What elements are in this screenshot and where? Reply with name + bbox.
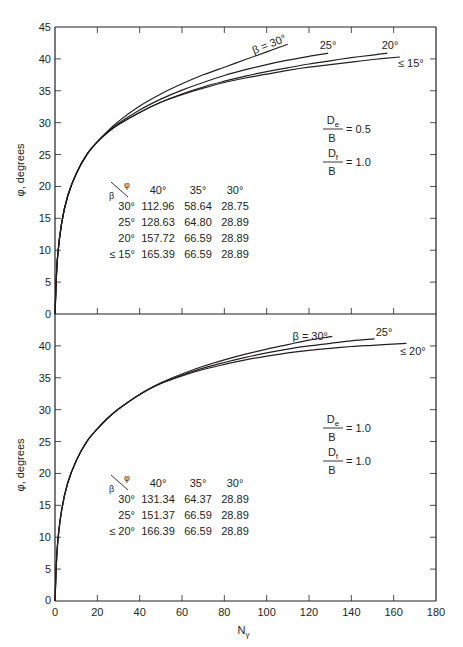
series-label: 20° bbox=[382, 39, 399, 51]
y-tick-label: 35 bbox=[39, 85, 51, 97]
y-tick-label: 30 bbox=[39, 404, 51, 416]
series-label: ≤ 20° bbox=[400, 345, 426, 357]
table-row-beta: 25° bbox=[118, 509, 135, 521]
y-tick-label: 45 bbox=[39, 21, 51, 33]
x-tick-label: 40 bbox=[134, 606, 146, 618]
x-tick-label: 100 bbox=[257, 606, 275, 618]
fraction-numerator: De bbox=[327, 413, 340, 428]
table-cell: 28.89 bbox=[221, 248, 249, 260]
x-tick-label: 120 bbox=[300, 606, 318, 618]
table-cell: 165.39 bbox=[141, 248, 175, 260]
table-row-beta: ≤ 20° bbox=[109, 525, 135, 537]
table-row-beta: ≤ 15° bbox=[109, 248, 135, 260]
table-cell: 28.75 bbox=[221, 200, 249, 212]
table-column-header: 30° bbox=[227, 184, 244, 196]
y-tick-label: 40 bbox=[39, 340, 51, 352]
table-cell: 28.89 bbox=[221, 525, 249, 537]
table-cell: 28.89 bbox=[221, 232, 249, 244]
parameter-fraction: DeB= 0.5 bbox=[323, 114, 371, 144]
parameter-fraction: DeB= 1.0 bbox=[323, 413, 371, 443]
table-cell: 157.72 bbox=[141, 232, 175, 244]
y-tick-label: 40 bbox=[39, 53, 51, 65]
parameter-fraction: DfB= 1.0 bbox=[323, 147, 371, 177]
x-tick-label: 140 bbox=[342, 606, 360, 618]
y-tick-label: 20 bbox=[39, 467, 51, 479]
table-column-header: 40° bbox=[150, 477, 167, 489]
table-cell: 28.89 bbox=[221, 493, 249, 505]
x-tick-label: 0 bbox=[52, 606, 58, 618]
fraction-numerator: Df bbox=[328, 446, 339, 461]
fraction-denominator: B bbox=[328, 132, 335, 144]
table-cell: 66.59 bbox=[184, 525, 212, 537]
table-cell: 58.64 bbox=[184, 200, 212, 212]
x-tick-label: 180 bbox=[427, 606, 445, 618]
series-curve bbox=[55, 336, 332, 601]
fraction-numerator: Df bbox=[328, 147, 339, 162]
fraction-numerator: De bbox=[327, 114, 340, 129]
series-curve bbox=[55, 339, 375, 601]
table-row-beta: 25° bbox=[118, 216, 135, 228]
y-tick-label: 15 bbox=[39, 212, 51, 224]
y-tick-label: 5 bbox=[45, 563, 51, 575]
bearing-capacity-figure: 051015202530354045φ, degreesβ = 30°25°20… bbox=[0, 0, 463, 647]
table-column-header: 35° bbox=[190, 184, 207, 196]
y-axis-label: φ, degrees bbox=[14, 438, 26, 491]
series-label: ≤ 15° bbox=[398, 57, 424, 69]
top-panel: 051015202530354045φ, degreesβ = 30°25°20… bbox=[14, 21, 436, 320]
fraction-denominator: B bbox=[328, 165, 335, 177]
table-cell: 131.34 bbox=[141, 493, 175, 505]
table-corner-beta: β bbox=[109, 484, 114, 494]
y-tick-label: 25 bbox=[39, 436, 51, 448]
y-axis-label: φ, degrees bbox=[14, 143, 26, 196]
x-tick-label: 60 bbox=[176, 606, 188, 618]
table-cell: 128.63 bbox=[141, 216, 175, 228]
table-cell: 64.37 bbox=[184, 493, 212, 505]
fraction-denominator: B bbox=[328, 431, 335, 443]
x-tick-label: 80 bbox=[218, 606, 230, 618]
table-column-header: 40° bbox=[150, 184, 167, 196]
table-cell: 64.80 bbox=[184, 216, 212, 228]
y-tick-label: 25 bbox=[39, 149, 51, 161]
series-label: 25° bbox=[320, 39, 337, 51]
x-axis: 020406080100120140160180Nγ bbox=[52, 606, 445, 639]
y-tick-label: 30 bbox=[39, 117, 51, 129]
table-cell: 66.59 bbox=[184, 232, 212, 244]
y-tick-label: 0 bbox=[45, 594, 51, 606]
n-gamma-table: φβ40°35°30°30°112.9658.6428.7525°128.636… bbox=[109, 180, 249, 260]
fraction-value: = 1.0 bbox=[346, 156, 371, 168]
series-curve bbox=[55, 343, 406, 601]
fraction-denominator: B bbox=[328, 464, 335, 476]
table-cell: 112.96 bbox=[142, 200, 175, 212]
n-gamma-table: φβ40°35°30°30°131.3464.3728.8925°151.376… bbox=[109, 473, 249, 537]
x-axis-label: Nγ bbox=[238, 624, 250, 639]
table-row-beta: 30° bbox=[118, 200, 135, 212]
table-row-beta: 20° bbox=[118, 232, 135, 244]
x-tick-label: 160 bbox=[384, 606, 402, 618]
table-cell: 66.59 bbox=[184, 509, 212, 521]
parameter-fraction: DfB= 1.0 bbox=[323, 446, 371, 476]
fraction-value: = 1.0 bbox=[346, 422, 371, 434]
table-row-beta: 30° bbox=[118, 493, 135, 505]
table-corner-beta: β bbox=[109, 191, 114, 201]
series-curve bbox=[55, 44, 288, 314]
x-tick-label: 20 bbox=[91, 606, 103, 618]
series-label: β = 30° bbox=[293, 330, 329, 342]
y-tick-label: 10 bbox=[39, 244, 51, 256]
series-curve bbox=[55, 53, 387, 314]
table-cell: 28.89 bbox=[221, 216, 249, 228]
table-cell: 66.59 bbox=[184, 248, 212, 260]
fraction-value: = 0.5 bbox=[346, 123, 371, 135]
y-tick-label: 5 bbox=[45, 276, 51, 288]
table-cell: 28.89 bbox=[221, 509, 249, 521]
y-tick-label: 15 bbox=[39, 499, 51, 511]
table-column-header: 35° bbox=[190, 477, 207, 489]
table-cell: 151.37 bbox=[141, 509, 175, 521]
y-tick-label: 0 bbox=[45, 308, 51, 320]
table-cell: 166.39 bbox=[141, 525, 175, 537]
table-column-header: 30° bbox=[227, 477, 244, 489]
fraction-value: = 1.0 bbox=[346, 455, 371, 467]
series-label: 25° bbox=[376, 326, 393, 338]
y-tick-label: 20 bbox=[39, 180, 51, 192]
bottom-panel: 0510152025303540φ, degreesβ = 30°25°≤ 20… bbox=[14, 314, 436, 606]
table-corner-phi: φ bbox=[124, 180, 130, 190]
